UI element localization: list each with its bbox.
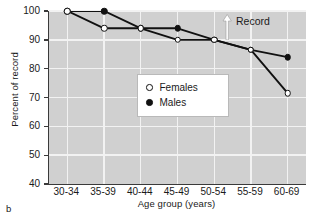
record-label: Record xyxy=(236,16,270,27)
legend-label-males: Males xyxy=(160,98,187,108)
legend-item-males: Males xyxy=(146,95,222,110)
legend-item-females: Females xyxy=(146,80,222,95)
open-circle-icon xyxy=(146,84,153,91)
legend-label-females: Females xyxy=(160,83,198,93)
x-tick-label-60-69: 60-69 xyxy=(260,187,311,197)
up-arrow-icon xyxy=(222,14,233,40)
chart-legend: Females Males xyxy=(137,74,229,117)
record-annotation: Record xyxy=(222,14,270,40)
filled-circle-icon xyxy=(146,99,153,106)
chart-figure: Percent of record Age group (years) b 40… xyxy=(0,0,311,222)
